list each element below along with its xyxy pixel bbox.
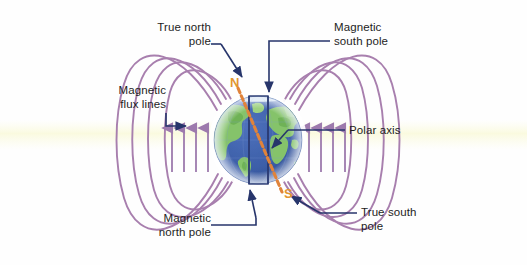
diagram-canvas: True north pole Magnetic flux lines Magn… [0,0,527,265]
leader-magnetic-north-pole [211,218,256,225]
pole-marker-south: S [284,186,293,201]
leader-magnetic-north-pole-arrow [250,190,256,218]
leader-true-south-pole-arrow [291,196,320,213]
leader-magnetic-south-pole [269,41,330,49]
label-magnetic-north-pole: Magnetic north pole [118,212,211,239]
label-polar-axis: Polar axis [349,124,429,138]
label-true-north-pole: True north pole [118,21,211,48]
label-magnetic-south-pole: Magnetic south pole [334,21,429,48]
leader-true-north-pole-arrow [221,44,242,77]
pole-marker-north: N [230,75,239,90]
label-magnetic-flux-lines: Magnetic flux lines [92,84,166,111]
label-true-south-pole: True south pole [361,206,456,233]
earth-globe [209,91,307,190]
